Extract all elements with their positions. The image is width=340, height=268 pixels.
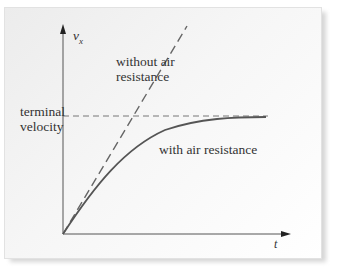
with-air-resistance-curve <box>63 117 266 234</box>
with-air-resistance-label: with air resistance <box>159 142 257 157</box>
velocity-diagram <box>0 0 340 268</box>
y-axis-arrow-icon <box>60 24 66 34</box>
without-air-resistance-label: without air resistance <box>116 54 175 84</box>
x-axis-arrow-icon <box>281 231 291 237</box>
without-line1: without air <box>116 54 175 69</box>
velocity-text: velocity <box>20 119 58 134</box>
terminal-text: terminal <box>20 104 58 119</box>
x-axis-label: t <box>274 237 277 252</box>
without-line2: resistance <box>116 69 175 84</box>
terminal-velocity-label: terminal velocity <box>20 104 58 134</box>
y-axis-label: vx <box>73 28 83 49</box>
